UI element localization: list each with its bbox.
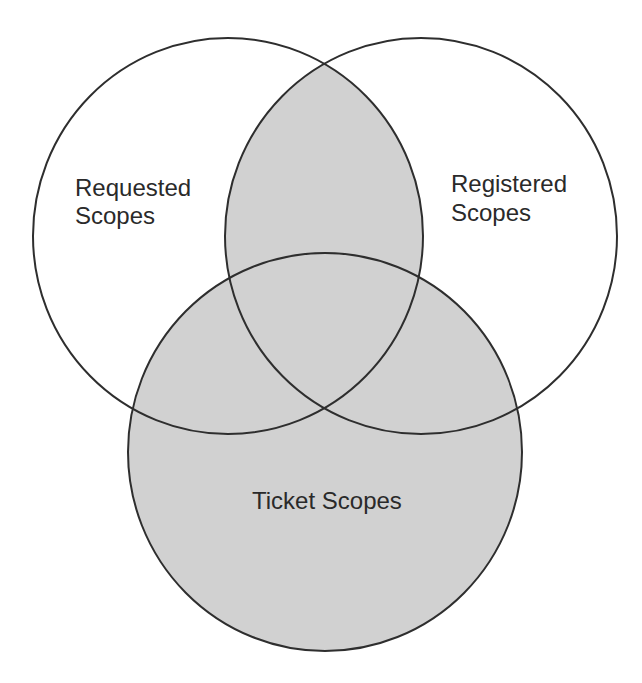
- registered-scopes-label: Registered Scopes: [451, 170, 574, 226]
- requested-scopes-label-line1: Requested: [75, 174, 191, 201]
- venn-diagram: Requested Scopes Registered Scopes Ticke…: [0, 0, 642, 683]
- ticket-scopes-fill: [128, 253, 522, 651]
- ticket-scopes-label: Ticket Scopes: [252, 487, 402, 514]
- ticket-scopes-label-line1: Ticket Scopes: [252, 487, 402, 514]
- requested-scopes-label: Requested Scopes: [75, 174, 198, 229]
- registered-scopes-label-line1: Registered: [451, 170, 567, 197]
- registered-scopes-label-line2: Scopes: [451, 199, 531, 226]
- requested-scopes-label-line2: Scopes: [75, 202, 155, 229]
